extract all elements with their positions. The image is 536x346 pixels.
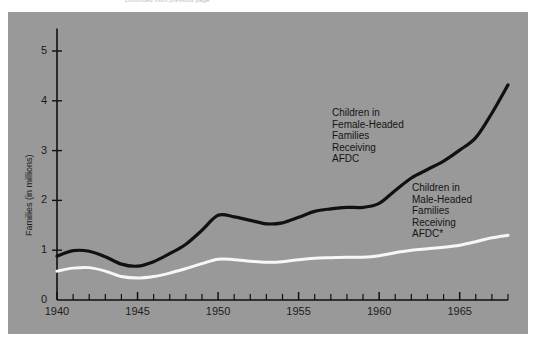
x-tick-label: 1950 bbox=[198, 305, 238, 317]
y-tick-label: 2 bbox=[33, 193, 47, 205]
y-tick-label: 4 bbox=[33, 94, 47, 106]
chart-panel: Families (in millions) 012345 1940194519… bbox=[8, 12, 528, 334]
series-line-male-headed bbox=[57, 235, 508, 278]
x-tick-label: 1945 bbox=[118, 305, 158, 317]
y-tick-label: 0 bbox=[33, 293, 47, 305]
x-tick-label: 1960 bbox=[359, 305, 399, 317]
y-tick-label: 5 bbox=[33, 44, 47, 56]
annotation-female-headed: Children in Female-Headed Families Recei… bbox=[332, 107, 404, 165]
chart-figure: continued from previous page Families (i… bbox=[0, 0, 536, 346]
top-caption-sliver: continued from previous page bbox=[125, 0, 315, 5]
x-tick-label: 1955 bbox=[279, 305, 319, 317]
y-tick-label: 3 bbox=[33, 144, 47, 156]
y-tick-label: 1 bbox=[33, 243, 47, 255]
line-chart-svg bbox=[8, 12, 528, 334]
x-tick-label: 1940 bbox=[37, 305, 77, 317]
x-tick-label: 1965 bbox=[440, 305, 480, 317]
annotation-male-headed: Children in Male-Headed Families Receivi… bbox=[412, 182, 472, 240]
